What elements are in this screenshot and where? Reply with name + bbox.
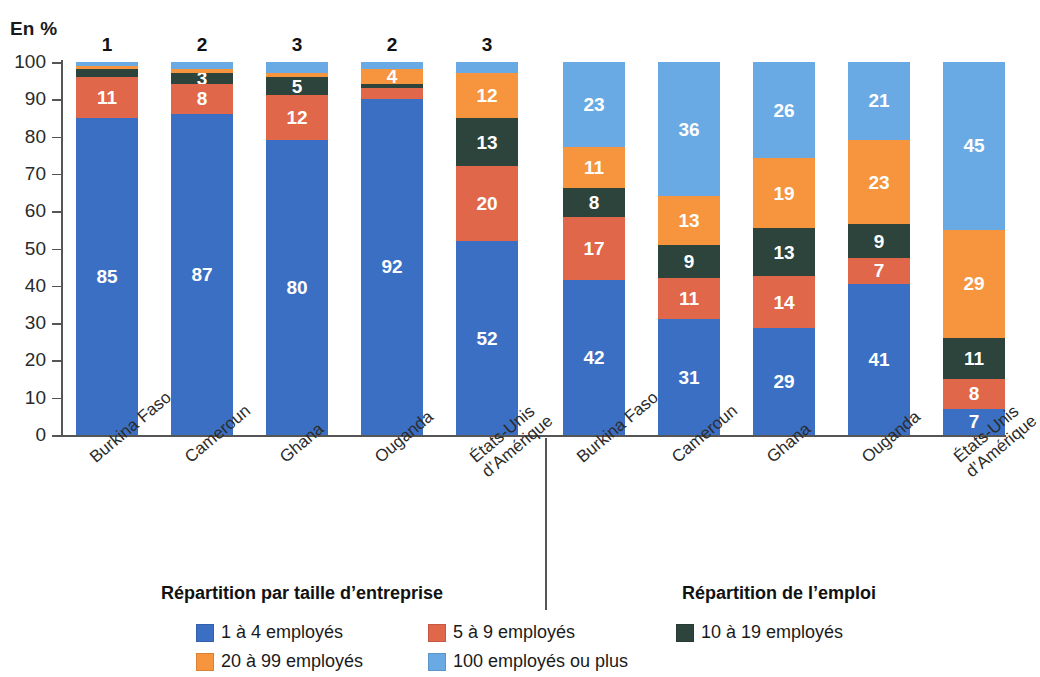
panel-title-enterprise-size: Répartition par taille d’entreprise	[62, 583, 542, 604]
y-tick-label-20: 20	[0, 350, 46, 369]
bar-segment-20-99[interactable]: 13	[658, 196, 720, 244]
bar-segment-20-99[interactable]: 23	[848, 140, 910, 225]
bar-segment-5-9[interactable]: 11	[658, 278, 720, 319]
legend-row-0: 1 à 4 employés5 à 9 employés10 à 19 empl…	[196, 622, 956, 643]
bar-segment-10-19[interactable]: 13	[456, 118, 518, 166]
bar-segment-20-99[interactable]: 4	[361, 69, 423, 84]
bar-segment-1-4[interactable]: 42	[563, 280, 625, 435]
bar-top-value-label: 3	[456, 34, 518, 56]
bar-segment-100+[interactable]: 45	[943, 62, 1005, 230]
legend-swatch-icon-100+	[428, 653, 446, 671]
y-tick-label-0: 0	[0, 425, 46, 444]
bar-segment-20-99[interactable]: 12	[456, 73, 518, 118]
bar-segment-1-4[interactable]: 52	[456, 241, 518, 435]
bar-segment-20-99[interactable]: 19	[753, 158, 815, 228]
bar-segment-5-9[interactable]: 17	[563, 217, 625, 280]
y-tick-100	[52, 62, 62, 64]
bar-segment-100+[interactable]: 36	[658, 62, 720, 196]
legend-row-1: 20 à 99 employés100 employés ou plus	[196, 651, 956, 672]
bar-segment-5-9[interactable]: 12	[266, 95, 328, 139]
y-tick-label-50: 50	[0, 239, 46, 258]
bar-segment-100+[interactable]: 21	[848, 62, 910, 140]
legend-item-5-9[interactable]: 5 à 9 employés	[428, 622, 676, 643]
chart-legend: 1 à 4 employés5 à 9 employés10 à 19 empl…	[196, 622, 956, 677]
bar-top-value-label: 2	[171, 34, 233, 56]
legend-label: 20 à 99 employés	[221, 651, 363, 672]
y-tick-label-80: 80	[0, 127, 46, 146]
bar-segment-100+[interactable]	[266, 62, 328, 73]
bar-segment-10-19[interactable]	[76, 69, 138, 76]
bar-top-value-label: 2	[361, 34, 423, 56]
y-tick-10	[52, 398, 62, 400]
legend-swatch-icon-20-99	[196, 653, 214, 671]
panel-title-employment: Répartition de l’emploi	[552, 583, 1006, 604]
legend-item-100+[interactable]: 100 employés ou plus	[428, 651, 676, 672]
bar-segment-5-9[interactable]: 7	[848, 258, 910, 284]
panel-divider	[545, 438, 547, 610]
bar-segment-5-9[interactable]: 11	[76, 77, 138, 118]
bar-segment-5-9[interactable]: 14	[753, 276, 815, 328]
legend-item-20-99[interactable]: 20 à 99 employés	[196, 651, 428, 672]
bar-left-0[interactable]: 85111	[76, 62, 138, 435]
bar-segment-1-4[interactable]: 29	[753, 328, 815, 435]
bar-segment-20-99[interactable]: 29	[943, 230, 1005, 338]
bar-segment-100+[interactable]: 26	[753, 62, 815, 158]
bar-segment-100+[interactable]	[171, 62, 233, 69]
y-tick-label-30: 30	[0, 313, 46, 332]
y-tick-70	[52, 174, 62, 176]
bar-left-4[interactable]: 522013123	[456, 62, 518, 435]
bar-segment-100+[interactable]	[456, 62, 518, 73]
bar-top-value-label: 3	[266, 34, 328, 56]
bar-segment-10-19[interactable]: 9	[658, 245, 720, 279]
bar-segment-1-4[interactable]: 80	[266, 140, 328, 435]
bar-segment-1-4[interactable]: 87	[171, 114, 233, 435]
bar-segment-5-9[interactable]: 8	[171, 84, 233, 114]
bar-segment-10-19[interactable]: 9	[848, 224, 910, 257]
bar-segment-10-19[interactable]: 3	[171, 73, 233, 84]
bar-top-value-label: 1	[76, 34, 138, 56]
bar-segment-100+[interactable]: 23	[563, 62, 625, 147]
bar-segment-100+[interactable]	[361, 62, 423, 69]
y-tick-label-60: 60	[0, 201, 46, 220]
y-tick-80	[52, 137, 62, 139]
bar-segment-5-9[interactable]: 8	[943, 379, 1005, 409]
bar-right-6[interactable]: 311191336	[658, 62, 720, 435]
y-tick-90	[52, 99, 62, 101]
bar-segment-5-9[interactable]: 20	[456, 166, 518, 241]
y-tick-50	[52, 249, 62, 251]
bar-segment-5-9[interactable]	[361, 88, 423, 99]
legend-item-10-19[interactable]: 10 à 19 employés	[676, 622, 916, 643]
bar-right-5[interactable]: 421781123	[563, 62, 625, 435]
bar-left-1[interactable]: 87832	[171, 62, 233, 435]
bar-segment-10-19[interactable]: 13	[753, 228, 815, 276]
y-tick-60	[52, 211, 62, 213]
legend-label: 5 à 9 employés	[453, 622, 575, 643]
plot-area: 8511187832801253924252201312342178112331…	[62, 62, 1006, 435]
bar-right-8[interactable]: 41792321	[848, 62, 910, 435]
bar-segment-1-4[interactable]: 41	[848, 284, 910, 435]
bar-segment-20-99[interactable]: 11	[563, 147, 625, 188]
bar-segment-1-4[interactable]: 85	[76, 118, 138, 435]
legend-swatch-icon-1-4	[196, 624, 214, 642]
bar-left-3[interactable]: 9242	[361, 62, 423, 435]
bar-right-9[interactable]: 78112945	[943, 62, 1005, 435]
y-tick-40	[52, 286, 62, 288]
legend-label: 100 employés ou plus	[453, 651, 628, 672]
y-tick-label-70: 70	[0, 164, 46, 183]
y-tick-20	[52, 360, 62, 362]
y-tick-label-10: 10	[0, 388, 46, 407]
bar-segment-10-19[interactable]: 5	[266, 77, 328, 95]
bar-right-7[interactable]: 2914131926	[753, 62, 815, 435]
legend-label: 10 à 19 employés	[701, 622, 843, 643]
legend-swatch-icon-5-9	[428, 624, 446, 642]
legend-item-1-4[interactable]: 1 à 4 employés	[196, 622, 428, 643]
y-axis-tick-labels: 0102030405060708090100	[0, 0, 48, 677]
legend-label: 1 à 4 employés	[221, 622, 343, 643]
bar-segment-1-4[interactable]: 92	[361, 99, 423, 435]
bar-segment-10-19[interactable]: 8	[563, 188, 625, 218]
bar-segment-10-19[interactable]: 11	[943, 338, 1005, 379]
bar-left-2[interactable]: 801253	[266, 62, 328, 435]
legend-swatch-icon-10-19	[676, 624, 694, 642]
y-tick-label-100: 100	[0, 52, 46, 71]
